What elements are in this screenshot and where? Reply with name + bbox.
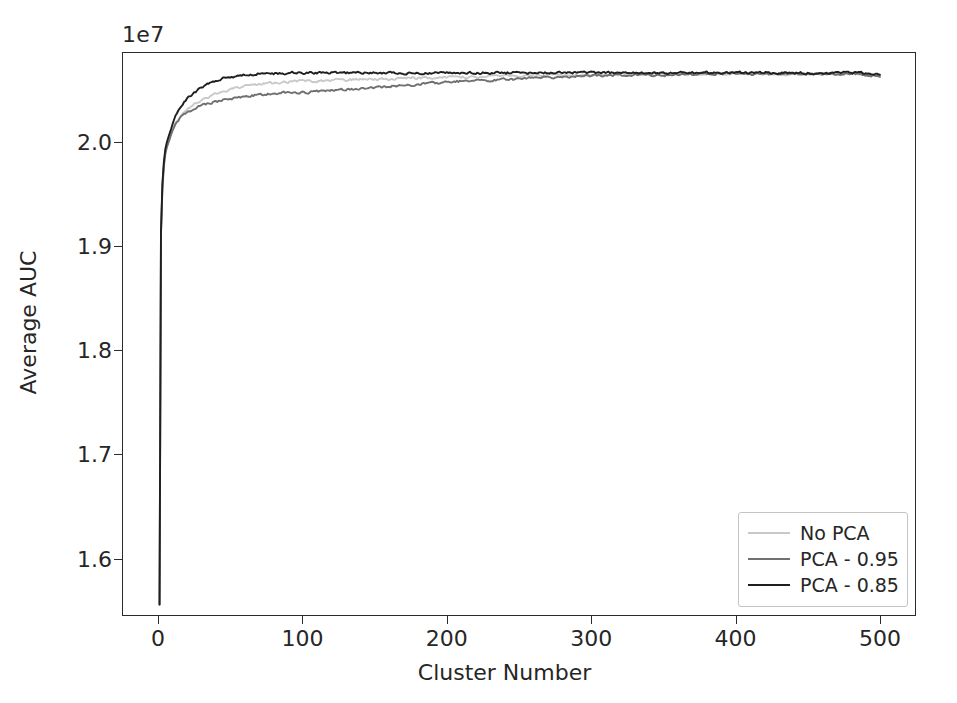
legend-box: No PCAPCA - 0.95PCA - 0.85: [738, 512, 908, 607]
legend-item-label: PCA - 0.85: [800, 574, 899, 596]
figure-canvas: 1e7 1.61.71.81.92.0 0100200300400500 Clu…: [0, 0, 957, 703]
x-axis-tick-mark: [880, 616, 881, 624]
x-axis-tick-label: 500: [859, 626, 901, 651]
x-axis-tick-mark: [447, 616, 448, 624]
y-axis-tick-label: 2.0: [50, 129, 112, 154]
x-axis-tick-mark: [302, 616, 303, 624]
legend-item[interactable]: No PCA: [748, 520, 898, 546]
x-axis-tick-label: 300: [570, 626, 612, 651]
y-axis-tick-labels: 1.61.71.81.92.0: [46, 0, 112, 703]
legend-item[interactable]: PCA - 0.95: [748, 546, 898, 572]
y-axis-tick-mark: [114, 559, 122, 560]
legend-item-label: No PCA: [800, 522, 870, 544]
x-axis-tick-label: 400: [715, 626, 757, 651]
legend-line-swatch: [748, 532, 790, 534]
legend-line-swatch: [748, 584, 790, 586]
legend-line-swatch: [748, 558, 790, 560]
y-axis-offset-label: 1e7: [122, 22, 164, 47]
y-axis-title: Average AUC: [16, 203, 41, 443]
y-axis-tick-label: 1.7: [50, 442, 112, 467]
y-axis-tick-mark: [114, 142, 122, 143]
y-axis-tick-label: 1.6: [50, 546, 112, 571]
legend-item[interactable]: PCA - 0.85: [748, 572, 898, 598]
y-axis-tick-mark: [114, 350, 122, 351]
x-axis-tick-label: 0: [151, 626, 165, 651]
x-axis-tick-mark: [736, 616, 737, 624]
y-axis-tick-mark: [114, 454, 122, 455]
x-axis-title: Cluster Number: [0, 660, 957, 685]
y-axis-tick-label: 1.8: [50, 338, 112, 363]
legend-item-label: PCA - 0.95: [800, 548, 899, 570]
x-axis-tick-mark: [591, 616, 592, 624]
x-axis-tick-mark: [158, 616, 159, 624]
x-axis-tick-label: 200: [426, 626, 468, 651]
x-axis-tick-label: 100: [281, 626, 323, 651]
x-axis-title-text: Cluster Number: [418, 660, 591, 685]
y-axis-tick-label: 1.9: [50, 233, 112, 258]
y-axis-tick-mark: [114, 246, 122, 247]
